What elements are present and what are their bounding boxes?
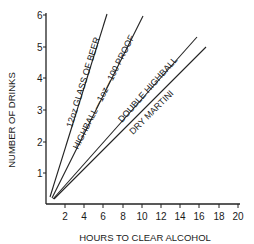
y-ticks: 1 2 3 4 5 6: [37, 10, 46, 179]
x-tick-label: 12: [155, 211, 167, 222]
y-tick-label: 4: [37, 73, 43, 84]
line-dry-martini: [54, 47, 206, 199]
line-labels: 12oz GLASS OF BEER HIGHBALL—1oz—100 PROO…: [64, 33, 179, 151]
x-tick-label: 6: [100, 211, 106, 222]
x-tick-label: 8: [120, 211, 126, 222]
y-tick-label: 1: [37, 168, 43, 179]
y-tick-label: 2: [37, 137, 43, 148]
x-axis-title: HOURS TO CLEAR ALCOHOL: [79, 232, 211, 243]
x-tick-label: 14: [174, 211, 186, 222]
y-axis-title: NUMBER OF DRINKS: [6, 72, 17, 168]
alcohol-clearance-chart: 1 2 3 4 5 6 2 4 6 8 10 12 14 16 18 20 HO…: [0, 0, 254, 244]
x-tick-label: 4: [81, 211, 87, 222]
x-tick-label: 2: [62, 211, 68, 222]
y-tick-label: 6: [37, 10, 43, 21]
y-tick-label: 5: [37, 42, 43, 53]
x-tick-label: 20: [232, 211, 244, 222]
y-tick-label: 3: [37, 105, 43, 116]
x-tick-label: 18: [213, 211, 225, 222]
x-ticks: 2 4 6 8 10 12 14 16 18 20: [62, 204, 244, 222]
x-tick-label: 10: [136, 211, 148, 222]
x-tick-label: 16: [193, 211, 205, 222]
